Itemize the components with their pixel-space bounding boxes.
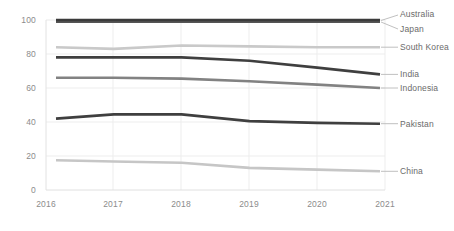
y-tick-label-100: 100 — [14, 15, 36, 25]
series-line-south-korea — [56, 46, 380, 49]
leader-line-australia — [381, 15, 398, 21]
y-tick-label-40: 40 — [14, 117, 36, 127]
x-tick-label-2020: 2020 — [297, 199, 337, 209]
series-label-australia: Australia — [400, 9, 434, 19]
series-lines — [56, 20, 380, 171]
y-tick-label-20: 20 — [14, 151, 36, 161]
y-tick-label-0: 0 — [14, 185, 36, 195]
plot-area — [0, 0, 454, 231]
gridlines-horizontal — [46, 20, 385, 156]
x-tick-label-2018: 2018 — [161, 199, 201, 209]
series-line-india — [56, 57, 380, 74]
x-tick-label-2019: 2019 — [229, 199, 269, 209]
series-label-japan: Japan — [400, 24, 424, 34]
series-line-china — [56, 160, 380, 171]
x-tick-label-2021: 2021 — [365, 199, 405, 209]
series-label-pakistan: Pakistan — [400, 119, 434, 129]
series-line-indonesia — [56, 78, 380, 88]
series-label-south-korea: South Korea — [400, 42, 449, 52]
series-label-indonesia: Indonesia — [400, 83, 438, 93]
y-tick-label-60: 60 — [14, 83, 36, 93]
series-label-india: India — [400, 69, 419, 79]
y-tick-label-80: 80 — [14, 49, 36, 59]
x-tick-label-2016: 2016 — [26, 199, 66, 209]
leader-line-japan — [381, 22, 398, 29]
line-chart: 100 80 60 40 20 0 2016 2017 2018 2019 20… — [0, 0, 454, 231]
leader-lines — [381, 15, 398, 171]
x-tick-label-2017: 2017 — [93, 199, 133, 209]
series-label-china: China — [400, 166, 423, 176]
